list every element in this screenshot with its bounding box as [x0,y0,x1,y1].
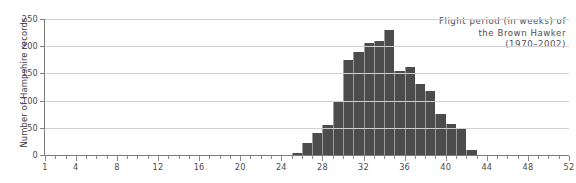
x-tick-label: 20 [229,163,251,172]
x-tick-mark-major [364,156,365,161]
y-tick-mark [40,155,44,156]
bar [415,84,425,155]
x-tick-mark-minor [333,156,334,159]
x-tick-mark-minor [179,156,180,159]
x-tick-mark-major [199,156,200,161]
x-tick-mark-major [405,156,406,161]
x-tick-mark-minor [507,156,508,159]
x-tick-mark-minor [374,156,375,159]
y-tick-mark [40,128,44,129]
x-tick-label: 16 [188,163,210,172]
x-tick-label: 8 [106,163,128,172]
x-tick-mark-minor [497,156,498,159]
gridline [45,101,569,102]
x-tick-label: 28 [311,163,333,172]
bar [466,150,476,155]
x-tick-mark-minor [353,156,354,159]
x-tick-mark-minor [66,156,67,159]
x-tick-mark-major [117,156,118,161]
bar [292,153,302,155]
x-tick-mark-minor [477,156,478,159]
y-tick-label: 100 [0,97,38,105]
x-tick-mark-minor [302,156,303,159]
bar [456,129,466,155]
x-tick-mark-minor [518,156,519,159]
x-tick-label: 44 [476,163,498,172]
x-tick-label: 24 [270,163,292,172]
x-tick-label: 40 [435,163,457,172]
x-tick-mark-minor [466,156,467,159]
x-tick-mark-minor [548,156,549,159]
x-tick-mark-minor [435,156,436,159]
x-tick-label: 1 [34,163,56,172]
x-axis-line [44,155,569,156]
x-tick-mark-major [322,156,323,161]
x-tick-mark-minor [538,156,539,159]
bar [394,71,404,155]
x-tick-mark-minor [55,156,56,159]
y-tick-label: 0 [0,151,38,159]
gridline [45,46,569,47]
y-tick-label: 150 [0,69,38,77]
y-tick-mark [40,73,44,74]
x-tick-mark-minor [394,156,395,159]
x-tick-mark-minor [425,156,426,159]
chart-title-line-2: the Brown Hawker [439,28,566,40]
x-tick-label: 36 [394,163,416,172]
x-tick-mark-minor [559,156,560,159]
x-tick-mark-minor [189,156,190,159]
x-tick-mark-major [528,156,529,161]
x-tick-mark-minor [312,156,313,159]
x-tick-mark-major [487,156,488,161]
x-tick-mark-minor [230,156,231,159]
x-tick-mark-minor [456,156,457,159]
gridline [45,19,569,20]
y-tick-label: 250 [0,15,38,23]
x-tick-label: 12 [147,163,169,172]
x-tick-mark-minor [96,156,97,159]
flight-period-bar-chart: Number of Hampshire records 050100150200… [0,0,576,183]
x-tick-mark-minor [220,156,221,159]
x-tick-mark-major [281,156,282,161]
x-tick-mark-minor [209,156,210,159]
gridline [45,128,569,129]
x-tick-mark-minor [86,156,87,159]
y-tick-mark [40,19,44,20]
chart-title-line-3: (1970–2002) [439,39,566,51]
x-tick-mark-minor [168,156,169,159]
chart-title-line-1: Flight period (in weeks) of [439,16,566,28]
y-axis-title: Number of Hampshire records [16,5,32,160]
x-tick-mark-minor [292,156,293,159]
x-tick-mark-minor [137,156,138,159]
y-tick-label: 50 [0,124,38,132]
y-tick-mark [40,46,44,47]
x-tick-mark-minor [415,156,416,159]
x-tick-mark-minor [261,156,262,159]
x-tick-label: 32 [353,163,375,172]
x-tick-mark-minor [384,156,385,159]
bar [353,52,363,155]
x-tick-mark-minor [148,156,149,159]
bar [405,67,415,155]
x-tick-label: 52 [558,163,576,172]
x-tick-mark-minor [107,156,108,159]
x-tick-label: 4 [65,163,87,172]
bar [322,125,332,155]
gridline [45,73,569,74]
x-tick-mark-major [158,156,159,161]
x-tick-mark-major [569,156,570,161]
bar [312,133,322,155]
x-tick-mark-major [446,156,447,161]
bar [364,43,374,155]
bar [374,41,384,155]
bar [384,30,394,155]
x-tick-mark-major [240,156,241,161]
x-tick-mark-minor [343,156,344,159]
bar [302,143,312,155]
x-tick-mark-minor [250,156,251,159]
y-tick-mark [40,101,44,102]
y-tick-label: 200 [0,42,38,50]
bar [435,114,445,155]
x-tick-label: 48 [517,163,539,172]
x-tick-mark-major [76,156,77,161]
